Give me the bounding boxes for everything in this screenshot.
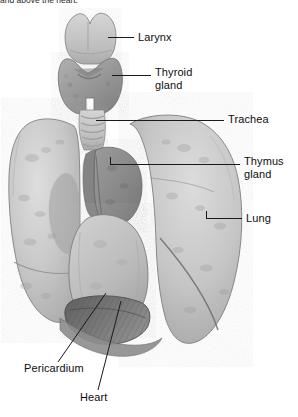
- larynx-structure: [65, 13, 116, 64]
- leader-line-larynx: [108, 37, 134, 38]
- leader-tick-lung: [206, 211, 207, 219]
- label-trachea: Trachea: [228, 113, 269, 126]
- leader-line-thyroid-gland: [112, 75, 151, 76]
- label-heart: Heart: [80, 391, 107, 404]
- thoracic-organs-illustration: [0, 0, 298, 417]
- leader-line-thymus-gland: [110, 164, 240, 165]
- label-pericardium: Pericardium: [24, 362, 84, 375]
- left-lung-structure: [9, 119, 80, 322]
- label-thyroid-gland: Thyroid gland: [155, 66, 217, 91]
- leader-line-lung: [206, 218, 242, 219]
- thyroid-gland-structure: [58, 58, 122, 115]
- anatomy-figure: and above the heart.: [0, 0, 298, 417]
- leader-tick-thymus: [110, 157, 111, 165]
- label-larynx: Larynx: [138, 31, 172, 44]
- label-thymus-gland-line2: gland: [244, 168, 271, 180]
- label-thymus-gland: Thymus gland: [244, 155, 298, 180]
- label-thymus-gland-line1: Thymus: [244, 155, 284, 167]
- leader-line-trachea: [96, 120, 224, 121]
- label-thyroid-gland-line2: gland: [155, 79, 182, 91]
- trachea-structure: [79, 110, 105, 150]
- label-thyroid-gland-line1: Thyroid: [155, 66, 192, 78]
- thymus-gland-structure: [83, 147, 142, 225]
- label-lung: Lung: [246, 212, 271, 225]
